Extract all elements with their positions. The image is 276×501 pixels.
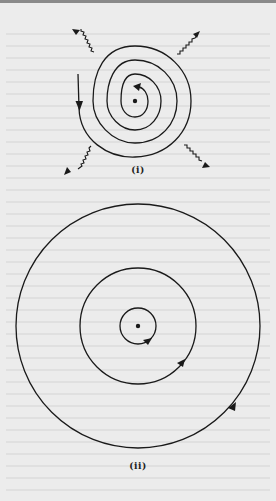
radiation-arrow-down-right-icon [184, 145, 202, 161]
radiation-arrowheads [64, 29, 210, 175]
orbit-arrowheads [143, 338, 236, 411]
figure-label-i: (i) [123, 165, 153, 175]
radiation-arrows [78, 29, 202, 169]
radiation-arrow-up-right-icon [177, 35, 197, 54]
nucleus-ii [136, 324, 140, 328]
spiral-direction-arrow-icon [76, 101, 84, 111]
atom-diagram [0, 0, 276, 501]
radiation-arrow-up-left-icon [81, 29, 94, 52]
spiral-inner-arrow-icon [133, 83, 141, 91]
radiation-arrow-down-left-icon [78, 146, 91, 169]
orbit-1-arrow-icon [143, 338, 152, 345]
textbook-page: (i) (ii) [0, 0, 276, 501]
figure-label-ii: (ii) [123, 461, 153, 471]
nucleus-i [133, 99, 137, 103]
